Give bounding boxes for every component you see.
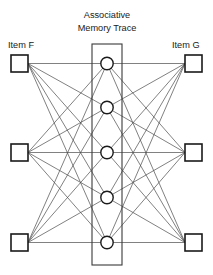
edge-g1-t2 bbox=[112, 64, 185, 105]
item-g-node-1[interactable] bbox=[185, 55, 202, 72]
edge-f1-t5 bbox=[28, 64, 104, 237]
edge-g1-t4 bbox=[110, 64, 185, 193]
item-f-node-3[interactable] bbox=[11, 234, 28, 251]
memory-trace-node-4[interactable] bbox=[101, 191, 113, 203]
node-layer bbox=[11, 55, 202, 251]
associative-memory-trace-diagram: Associative Memory Trace Item F Item G bbox=[0, 0, 213, 275]
diagram-title-line-1: Associative bbox=[84, 10, 130, 20]
item-f-label: Item F bbox=[8, 40, 34, 50]
edge-g3-t2 bbox=[110, 113, 185, 243]
edge-g1-t5 bbox=[109, 64, 185, 237]
edge-g3-t4 bbox=[112, 201, 185, 243]
item-g-node-3[interactable] bbox=[185, 234, 202, 251]
memory-trace-node-3[interactable] bbox=[101, 146, 113, 158]
memory-trace-node-2[interactable] bbox=[101, 101, 113, 113]
item-g-label: Item G bbox=[172, 40, 200, 50]
item-f-node-1[interactable] bbox=[11, 55, 28, 72]
memory-trace-node-1[interactable] bbox=[101, 57, 113, 69]
diagram-canvas: Associative Memory Trace Item F Item G bbox=[0, 0, 213, 275]
diagram-title-line-2: Memory Trace bbox=[78, 23, 137, 33]
edge-g3-t1 bbox=[109, 69, 185, 242]
edge-f3-t4 bbox=[28, 201, 102, 243]
edge-f1-t2 bbox=[28, 64, 102, 105]
edge-f3-t1 bbox=[28, 69, 104, 242]
item-g-node-2[interactable] bbox=[185, 144, 202, 161]
memory-trace-node-5[interactable] bbox=[101, 236, 113, 248]
item-f-node-2[interactable] bbox=[11, 144, 28, 161]
